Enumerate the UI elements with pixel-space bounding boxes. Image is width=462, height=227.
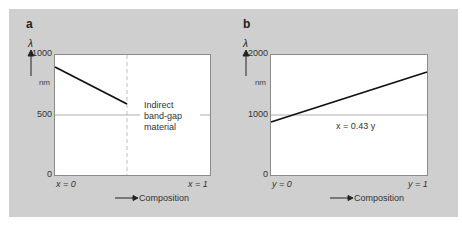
data-line-b bbox=[271, 72, 427, 122]
composition-arrow-b bbox=[330, 196, 353, 201]
lambda-arrow-a bbox=[28, 50, 34, 76]
composition-arrow-a bbox=[115, 196, 138, 201]
chart-lines bbox=[0, 0, 462, 227]
data-line-a bbox=[55, 67, 127, 104]
lambda-arrow-b bbox=[243, 50, 249, 76]
